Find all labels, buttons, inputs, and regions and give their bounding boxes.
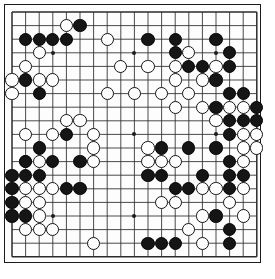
white-stone[interactable]	[237, 101, 250, 114]
white-stone[interactable]	[33, 155, 46, 168]
go-board[interactable]	[4, 4, 261, 263]
black-stone[interactable]	[33, 141, 46, 154]
black-stone[interactable]	[169, 237, 182, 250]
black-stone[interactable]	[196, 60, 209, 73]
black-stone[interactable]	[237, 87, 250, 100]
white-stone[interactable]	[141, 155, 154, 168]
star-point	[51, 214, 55, 218]
white-stone[interactable]	[169, 101, 182, 114]
white-stone[interactable]	[169, 73, 182, 86]
black-stone[interactable]	[5, 209, 18, 222]
black-stone[interactable]	[19, 73, 32, 86]
black-stone[interactable]	[155, 141, 168, 154]
black-stone[interactable]	[73, 19, 86, 32]
white-stone[interactable]	[33, 209, 46, 222]
black-stone[interactable]	[141, 169, 154, 182]
black-stone[interactable]	[155, 237, 168, 250]
white-stone[interactable]	[169, 60, 182, 73]
white-stone[interactable]	[33, 223, 46, 236]
white-stone[interactable]	[46, 73, 59, 86]
black-stone[interactable]	[209, 209, 222, 222]
black-stone[interactable]	[60, 33, 73, 46]
white-stone[interactable]	[237, 128, 250, 141]
star-point	[214, 51, 218, 55]
white-stone[interactable]	[196, 209, 209, 222]
black-stone[interactable]	[141, 33, 154, 46]
white-stone[interactable]	[209, 60, 222, 73]
black-stone[interactable]	[209, 73, 222, 86]
white-stone[interactable]	[101, 87, 114, 100]
black-stone[interactable]	[209, 101, 222, 114]
black-stone[interactable]	[73, 182, 86, 195]
black-stone[interactable]	[141, 237, 154, 250]
white-stone[interactable]	[196, 101, 209, 114]
black-stone[interactable]	[169, 33, 182, 46]
white-stone[interactable]	[33, 73, 46, 86]
black-stone[interactable]	[60, 128, 73, 141]
black-stone[interactable]	[33, 87, 46, 100]
black-stone[interactable]	[209, 141, 222, 154]
white-stone[interactable]	[141, 60, 154, 73]
white-stone[interactable]	[87, 141, 100, 154]
black-stone[interactable]	[223, 237, 236, 250]
white-stone[interactable]	[87, 237, 100, 250]
white-stone[interactable]	[33, 196, 46, 209]
white-stone[interactable]	[223, 101, 236, 114]
star-point	[51, 51, 55, 55]
black-stone[interactable]	[5, 196, 18, 209]
white-stone[interactable]	[237, 141, 250, 154]
white-stone[interactable]	[196, 237, 209, 250]
black-stone[interactable]	[223, 169, 236, 182]
white-stone[interactable]	[101, 33, 114, 46]
black-stone[interactable]	[237, 169, 250, 182]
white-stone[interactable]	[237, 155, 250, 168]
black-stone[interactable]	[155, 169, 168, 182]
black-stone[interactable]	[19, 169, 32, 182]
black-stone[interactable]	[19, 33, 32, 46]
white-stone[interactable]	[237, 209, 250, 222]
star-point	[132, 51, 136, 55]
white-stone[interactable]	[196, 73, 209, 86]
white-stone[interactable]	[73, 114, 86, 127]
white-stone[interactable]	[169, 196, 182, 209]
white-stone[interactable]	[5, 73, 18, 86]
white-stone[interactable]	[169, 155, 182, 168]
black-stone[interactable]	[33, 169, 46, 182]
white-stone[interactable]	[250, 141, 263, 154]
star-point	[132, 132, 136, 136]
black-stone[interactable]	[196, 169, 209, 182]
white-stone[interactable]	[209, 182, 222, 195]
white-stone[interactable]	[5, 87, 18, 100]
black-stone[interactable]	[182, 141, 195, 154]
white-stone[interactable]	[141, 141, 154, 154]
black-stone[interactable]	[19, 209, 32, 222]
star-point	[132, 214, 136, 218]
black-stone[interactable]	[73, 155, 86, 168]
star-point	[214, 132, 218, 136]
black-stone[interactable]	[5, 169, 18, 182]
black-stone[interactable]	[209, 33, 222, 46]
go-board-container	[0, 0, 275, 279]
black-stone[interactable]	[5, 182, 18, 195]
black-stone[interactable]	[33, 33, 46, 46]
white-stone[interactable]	[209, 114, 222, 127]
